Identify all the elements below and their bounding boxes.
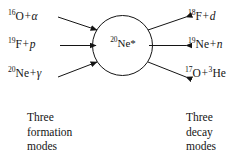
o16-mass-number: 16 <box>8 8 16 17</box>
decay-channel-ne19-neutron: 19Ne+n <box>188 39 223 51</box>
gamma-particle: γ <box>37 67 42 79</box>
f18-plus: + <box>202 10 210 22</box>
caption-decay-modes: Three decay modes <box>186 110 216 154</box>
caption-right-line1: Three <box>186 110 216 125</box>
nuclear-reaction-diagram: 20Ne* 16O+α 19F+p 20Ne+γ 18F+d 19Ne+n 17… <box>0 0 251 165</box>
formation-channel-ne20-gamma: 20Ne+γ <box>8 68 41 80</box>
decay-arrow-helium3 <box>148 62 186 77</box>
decay-channel-o17-helium3: 17O+3He <box>185 68 226 80</box>
o16-element: O <box>16 10 24 22</box>
formation-arrow-gamma <box>58 62 97 77</box>
o17-mass-number: 17 <box>185 65 193 74</box>
decay-channel-f18-deuteron: 18F+d <box>188 11 216 23</box>
nucleus-excited-marker: * <box>130 37 136 49</box>
caption-right-line3: modes <box>186 139 216 154</box>
formation-channel-f19-proton: 19F+p <box>8 39 36 51</box>
nucleus-mass-number: 20 <box>110 35 117 44</box>
alpha-particle: α <box>32 10 38 22</box>
o16-plus: + <box>24 10 32 22</box>
caption-formation-modes: Three formation modes <box>27 110 72 154</box>
nucleus-symbol: Ne <box>118 37 131 49</box>
caption-left-line1: Three <box>27 110 72 125</box>
ne20-mass-number: 20 <box>8 65 16 74</box>
o17-element: O <box>193 67 201 79</box>
ne19-mass-number: 19 <box>188 36 196 45</box>
f19-plus: + <box>22 38 30 50</box>
helium3-particle: He <box>212 67 226 79</box>
neutron-particle: n <box>217 38 223 50</box>
f18-mass-number: 18 <box>188 8 196 17</box>
formation-channel-o16-alpha: 16O+α <box>8 11 38 23</box>
ne20-plus: + <box>29 67 37 79</box>
formation-arrow-alpha <box>58 17 97 30</box>
ne20-element: Ne <box>16 67 30 79</box>
caption-left-line2: formation <box>27 125 72 140</box>
proton-particle: p <box>30 38 36 50</box>
caption-left-line3: modes <box>27 139 72 154</box>
deuteron-particle: d <box>210 10 216 22</box>
ne19-plus: + <box>209 38 217 50</box>
nucleus-label: 20Ne* <box>93 38 153 49</box>
caption-right-line2: decay <box>186 125 216 140</box>
o17-plus: + <box>201 67 209 79</box>
f19-mass-number: 19 <box>8 36 16 45</box>
ne19-element: Ne <box>196 38 210 50</box>
decay-arrow-deuteron <box>148 17 186 30</box>
